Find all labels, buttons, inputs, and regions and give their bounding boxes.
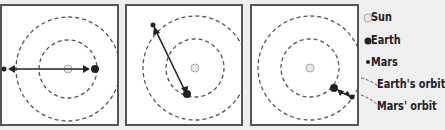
earth-orbit-legend-icon	[361, 78, 378, 86]
mars-legend-icon	[366, 60, 370, 64]
legend-earth-orbit-label: Earth's orbit	[377, 76, 445, 91]
legend-mars-label: Mars	[371, 54, 398, 69]
diagram-panel-1	[0, 4, 119, 126]
sun-icon	[191, 64, 199, 72]
earth-icon	[91, 65, 99, 73]
earth-icon	[330, 84, 338, 92]
legend-sun-label: Sun	[371, 9, 392, 24]
mars-orbit-legend-icon	[361, 95, 378, 105]
legend-earth-label: Earth	[371, 32, 401, 47]
mars-icon	[151, 23, 156, 28]
panel-3-drawing	[252, 6, 359, 124]
mars-icon	[350, 95, 355, 100]
sun-icon	[306, 64, 314, 72]
earth-icon	[183, 90, 191, 98]
panel-2-drawing	[127, 6, 243, 124]
diagram-panel-2	[125, 4, 243, 126]
distance-arrow	[156, 31, 185, 91]
panel-1-drawing	[2, 6, 119, 124]
mars-icon	[2, 67, 7, 72]
legend-mars-orbit-label: Mars' orbit	[377, 98, 437, 113]
diagram-panel-3	[250, 4, 359, 126]
